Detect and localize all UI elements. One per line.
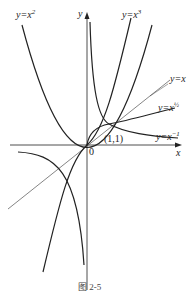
- label-y-eq-inverse-x: y=x−1: [156, 130, 180, 142]
- y-axis-arrow-icon: [85, 12, 90, 19]
- figure-caption: 图 2-5: [78, 280, 101, 293]
- origin-label: 0: [89, 146, 94, 157]
- label-y-eq-x: y=x: [170, 73, 186, 84]
- curve-y-eq-inverse-x-neg: [18, 152, 84, 265]
- label-y-eq-x-squared: y=x2: [16, 8, 35, 20]
- label-y-eq-sqrt-x: y=x½: [158, 101, 179, 113]
- curve-y-eq-inverse-x-pos: [90, 22, 178, 138]
- point-1-1-label: (1,1): [104, 133, 123, 144]
- y-axis-label: y: [78, 8, 82, 19]
- curve-y-eq-x: [8, 80, 170, 209]
- label-y-eq-x-cubed: y=x3: [122, 8, 141, 20]
- power-functions-graph: [0, 0, 191, 294]
- x-axis-label: x: [176, 147, 180, 158]
